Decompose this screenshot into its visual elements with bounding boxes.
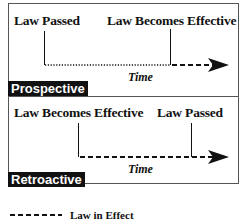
prospective-arrowhead-icon (208, 58, 229, 72)
legend-label: Law in Effect (70, 209, 134, 221)
timeline-graphics (0, 0, 245, 224)
